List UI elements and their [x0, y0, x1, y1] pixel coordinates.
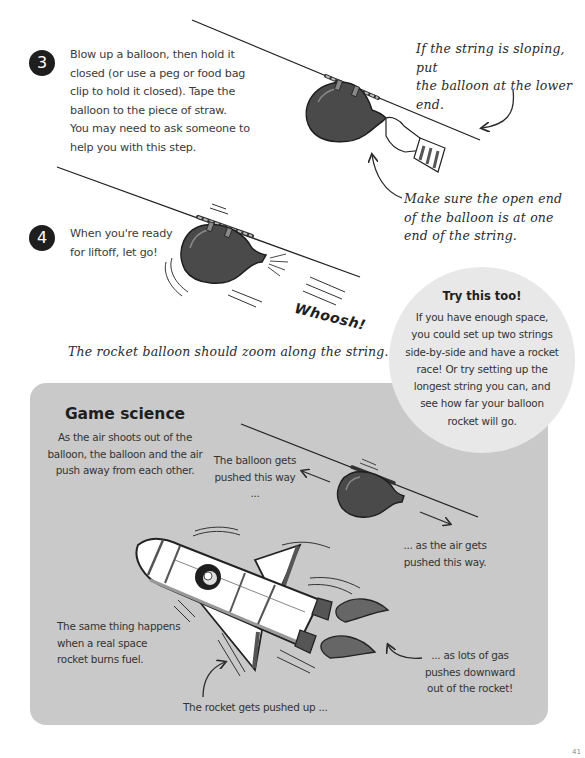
gas-down-line: pushes downward [420, 664, 520, 681]
try-this-line: longest string you can, and [396, 378, 568, 395]
step-4-badge: 4 [29, 225, 55, 251]
try-this-line: side-by-side and have a rocket [396, 344, 568, 361]
step-3-text: Blow up a balloon, then hold it closed (… [70, 46, 250, 157]
step-4-text: When you're ready for liftoff, let go! [70, 225, 173, 262]
balloon-pushed-line: pushed this way ... [210, 469, 300, 502]
step-3-line: help you with this step. [70, 139, 250, 158]
step-3-line: balloon to the piece of straw. [70, 102, 250, 121]
rocket-up-label: The rocket gets pushed up ... [183, 699, 328, 716]
try-this-line: If you have enough space, [396, 309, 568, 326]
step-3-line: clip to hold it closed). Tape the [70, 83, 250, 102]
intro-line: push away from each other. [30, 462, 220, 479]
open-end-note-line: end of the string. [404, 227, 562, 246]
try-this-title: Try this too! [389, 289, 575, 303]
step4-balloon-icon [165, 204, 345, 307]
step-4-line: When you're ready [70, 225, 173, 244]
intro-line: balloon, the balloon and the air [30, 446, 220, 463]
game-science-intro: As the air shoots out of the balloon, th… [30, 429, 220, 479]
gas-down-label: ... as lots of gas pushes downward out o… [420, 647, 520, 697]
try-this-line: rocket will go. [396, 413, 568, 430]
same-thing-label: The same thing happens when a real space… [57, 618, 180, 668]
whoosh-text: Whoosh! [293, 300, 368, 333]
try-this-line: see how far your balloon [396, 395, 568, 412]
same-thing-line: when a real space [57, 635, 180, 652]
same-thing-line: rocket burns fuel. [57, 651, 180, 668]
step-3-line: You may need to ask someone to [70, 120, 250, 139]
try-this-body: If you have enough space, you could set … [396, 309, 568, 430]
try-this-line: you could set up two strings [396, 326, 568, 343]
zoom-caption: The rocket balloon should zoom along the… [68, 343, 389, 362]
page-number: 41 [572, 748, 581, 756]
step-3-line: Blow up a balloon, then hold it [70, 46, 250, 65]
open-end-note-line: of the balloon is at one [404, 209, 562, 228]
air-pushed-line: ... as the air gets [400, 537, 490, 554]
balloon-pushed-line: The balloon gets [210, 452, 300, 469]
air-pushed-line: pushed this way. [400, 554, 490, 571]
step3-balloon-icon [306, 80, 386, 142]
game-science-title: Game science [50, 405, 200, 423]
sloping-note-line: If the string is sloping, put [416, 40, 585, 77]
air-pushed-label: ... as the air gets pushed this way. [400, 537, 490, 570]
gas-down-line: out of the rocket! [420, 680, 520, 697]
same-thing-line: The same thing happens [57, 618, 180, 635]
intro-line: As the air shoots out of the [30, 429, 220, 446]
balloon-pushed-label: The balloon gets pushed this way ... [210, 452, 300, 502]
sloping-note: If the string is sloping, put the balloo… [416, 40, 585, 114]
gas-down-line: ... as lots of gas [420, 647, 520, 664]
try-this-line: race! Or try setting up the [396, 361, 568, 378]
step-3-line: closed (or use a peg or food bag [70, 65, 250, 84]
hand-icon [386, 117, 445, 172]
open-end-note: Make sure the open end of the balloon is… [404, 190, 562, 246]
open-end-note-line: Make sure the open end [404, 190, 562, 209]
sloping-note-line: the balloon at the lower end. [416, 77, 585, 114]
step-3-badge: 3 [29, 50, 55, 76]
step-4-line: for liftoff, let go! [70, 244, 173, 263]
